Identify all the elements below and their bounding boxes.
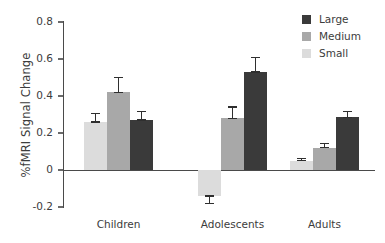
y-tick-label: 0.4 — [13, 89, 53, 101]
error-bar-cap — [343, 117, 352, 118]
error-bar — [232, 107, 233, 118]
error-bar-cap — [114, 92, 123, 93]
error-bar-cap — [91, 121, 100, 122]
y-tick-label: 0 — [13, 163, 53, 175]
y-tick-mark — [58, 206, 63, 207]
legend-item[interactable]: Medium — [302, 31, 361, 42]
category-label: Children — [64, 218, 174, 230]
error-bar-cap — [320, 143, 329, 144]
y-tick-mark — [58, 21, 63, 22]
error-bar — [255, 57, 256, 72]
bar — [290, 161, 313, 170]
legend-label-large: Large — [319, 14, 349, 25]
error-bar-cap — [251, 71, 260, 72]
y-tick-label: -0.2 — [13, 200, 53, 212]
legend-item[interactable]: Large — [302, 14, 361, 25]
y-axis-line — [63, 21, 64, 208]
error-bar-cap — [91, 113, 100, 114]
error-bar — [118, 78, 119, 93]
category-label: Adults — [270, 218, 380, 230]
bar — [336, 117, 359, 170]
error-bar-cap — [228, 118, 237, 119]
bar — [244, 72, 267, 170]
error-bar-cap — [297, 158, 306, 159]
legend: Large Medium Small — [302, 14, 361, 65]
error-bar-cap — [205, 195, 214, 196]
error-bar-cap — [137, 111, 146, 112]
legend-label-small: Small — [319, 48, 348, 59]
legend-swatch-large — [302, 15, 311, 24]
legend-item[interactable]: Small — [302, 48, 361, 59]
fmri-signal-change-bar-chart: %fMRI Signal Change 0.80.60.40.20-0.2 Ch… — [0, 0, 385, 243]
error-bar-cap — [205, 203, 214, 204]
y-tick-label: 0.2 — [13, 126, 53, 138]
error-bar-cap — [297, 160, 306, 161]
legend-label-medium: Medium — [319, 31, 361, 42]
y-tick-mark — [58, 95, 63, 96]
bar — [221, 118, 244, 170]
y-tick-mark — [58, 169, 63, 170]
error-bar-cap — [137, 119, 146, 120]
bar — [84, 122, 107, 170]
error-bar-cap — [228, 106, 237, 107]
error-bar-cap — [251, 57, 260, 58]
legend-swatch-medium — [302, 32, 311, 41]
error-bar-cap — [320, 147, 329, 148]
y-tick-mark — [58, 132, 63, 133]
bar — [130, 120, 153, 170]
error-bar-cap — [114, 77, 123, 78]
error-bar-cap — [343, 111, 352, 112]
bar — [313, 148, 336, 170]
legend-swatch-small — [302, 49, 311, 58]
y-tick-label: 0.8 — [13, 15, 53, 27]
y-tick-mark — [58, 58, 63, 59]
bar — [107, 92, 130, 170]
bar — [198, 170, 221, 196]
y-tick-label: 0.6 — [13, 52, 53, 64]
